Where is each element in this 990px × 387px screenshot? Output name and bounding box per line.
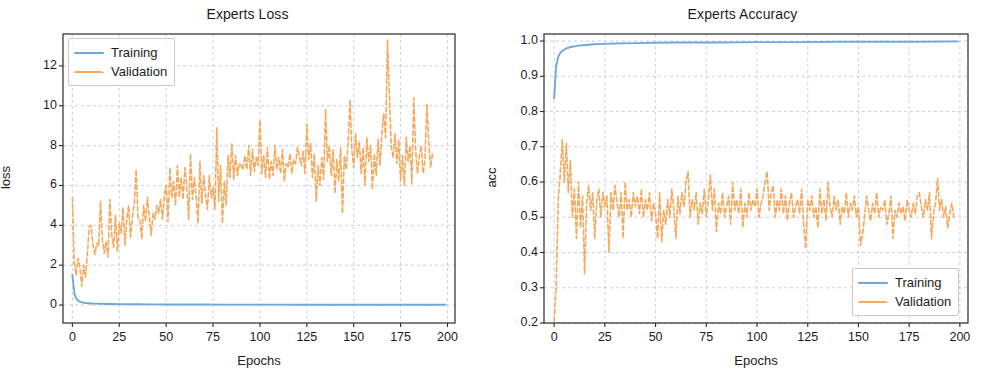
x-tick-label: 200: [934, 330, 986, 344]
x-tick-label: 150: [832, 330, 884, 344]
y-tick-label: 2: [15, 257, 57, 271]
x-tick-label: 175: [883, 330, 935, 344]
x-tick-label: 175: [375, 330, 427, 344]
legend-label-training: Training: [111, 45, 157, 60]
y-tick-label: 0.9: [496, 68, 538, 82]
x-tick-label: 50: [140, 330, 192, 344]
x-tick-label: 100: [731, 330, 783, 344]
legend-entry-training: Training: [858, 273, 951, 292]
legend-entry-training: Training: [74, 43, 167, 62]
legend-label-validation: Validation: [895, 294, 951, 309]
x-tick-label: 150: [328, 330, 380, 344]
y-tick-label: 6: [15, 177, 57, 191]
y-tick-label: 0.7: [496, 139, 538, 153]
y-tick-label: 1.0: [496, 33, 538, 47]
y-tick-label: 0.3: [496, 280, 538, 294]
y-tick-label: 0: [15, 297, 57, 311]
legend-entry-validation: Validation: [74, 62, 167, 81]
y-tick-label: 0.5: [496, 209, 538, 223]
x-tick-label: 125: [281, 330, 333, 344]
legend-line-icon-validation: [858, 296, 888, 308]
x-tick-label: 0: [46, 330, 98, 344]
legend-line-icon-training: [74, 47, 104, 59]
chart-panel-loss: Experts Loss loss Epochs Training Valida…: [0, 0, 495, 387]
x-tick-label: 100: [234, 330, 286, 344]
y-axis-label-loss: loss: [0, 165, 13, 188]
plot-area-accuracy: [495, 0, 990, 387]
legend-accuracy: Training Validation: [852, 268, 959, 316]
x-axis-label-loss: Epochs: [63, 353, 455, 368]
x-tick-label: 75: [187, 330, 239, 344]
x-axis-label-accuracy: Epochs: [544, 353, 968, 368]
legend-entry-validation: Validation: [858, 292, 951, 311]
legend-label-training: Training: [895, 275, 941, 290]
y-tick-label: 4: [15, 217, 57, 231]
y-tick-label: 0.4: [496, 245, 538, 259]
y-tick-label: 0.6: [496, 174, 538, 188]
y-tick-label: 0.2: [496, 315, 538, 329]
x-tick-label: 25: [93, 330, 145, 344]
x-tick-label: 25: [579, 330, 631, 344]
y-tick-label: 10: [15, 98, 57, 112]
chart-panel-accuracy: Experts Accuracy acc Epochs Training Val…: [495, 0, 990, 387]
x-tick-label: 125: [782, 330, 834, 344]
y-tick-label: 0.8: [496, 104, 538, 118]
x-tick-label: 50: [630, 330, 682, 344]
x-tick-label: 75: [680, 330, 732, 344]
legend-line-icon-training: [858, 277, 888, 289]
x-tick-label: 200: [421, 330, 473, 344]
legend-label-validation: Validation: [111, 64, 167, 79]
x-tick-label: 0: [528, 330, 580, 344]
y-tick-label: 12: [15, 58, 57, 72]
figure-container: Experts Loss loss Epochs Training Valida…: [0, 0, 990, 387]
legend-loss: Training Validation: [68, 38, 175, 86]
legend-line-icon-validation: [74, 66, 104, 78]
y-tick-label: 8: [15, 138, 57, 152]
